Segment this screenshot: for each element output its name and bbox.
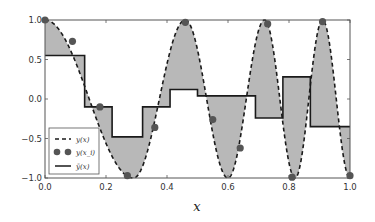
svg-text:0.2: 0.2 — [99, 182, 113, 192]
legend-label-yx: y(x) — [75, 136, 90, 144]
svg-text:−1.0: −1.0 — [21, 173, 42, 183]
svg-text:0.0: 0.0 — [38, 182, 52, 192]
svg-text:0.0: 0.0 — [28, 94, 42, 104]
svg-text:0.4: 0.4 — [160, 182, 174, 192]
legend-label-ybar: ȳ(x) — [75, 163, 90, 171]
legend: y(x) y(x_i) ȳ(x) — [49, 128, 99, 174]
svg-text:0.6: 0.6 — [221, 182, 235, 192]
svg-text:1.0: 1.0 — [343, 182, 357, 192]
svg-text:1.0: 1.0 — [28, 15, 42, 25]
legend-marker-icon — [54, 149, 61, 156]
svg-text:0.5: 0.5 — [28, 55, 42, 65]
legend-marker-icon — [65, 149, 72, 156]
legend-label-yxi: y(x_i) — [75, 149, 95, 157]
chart: 0.00.20.40.60.81.01.00.50.0−0.5−1.0 x y(… — [0, 0, 375, 222]
svg-text:0.8: 0.8 — [282, 182, 296, 192]
svg-text:−0.5: −0.5 — [21, 134, 42, 144]
x-axis-label: x — [193, 199, 201, 214]
